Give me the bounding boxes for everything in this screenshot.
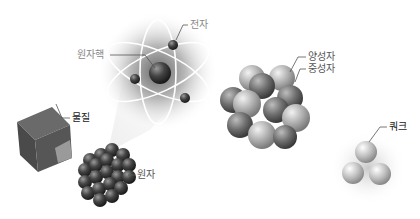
label-electron: 전자 xyxy=(190,19,208,31)
label-neutron: 중성자 xyxy=(308,63,335,75)
label-atom: 원자 xyxy=(137,169,155,181)
atom-lattice xyxy=(78,143,136,207)
quark-group xyxy=(330,132,406,204)
electron xyxy=(168,40,178,50)
diagram-graphics xyxy=(0,0,420,219)
nucleus xyxy=(149,62,171,84)
label-proton: 양성자 xyxy=(308,51,335,63)
label-quark: 쿼크 xyxy=(389,121,407,133)
label-nucleus: 원자핵 xyxy=(77,49,104,61)
matter-structure-diagram: 전자 원자핵 물질 원자 양성자 중성자 쿼크 xyxy=(0,0,420,219)
electron xyxy=(130,74,140,84)
electron xyxy=(180,93,190,103)
matter-cube xyxy=(17,107,72,172)
label-matter: 물질 xyxy=(72,112,90,124)
